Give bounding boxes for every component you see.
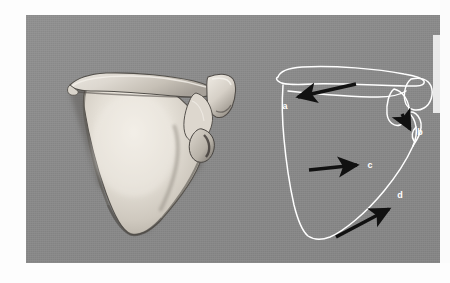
outline-spine-of-scapula [277, 66, 425, 86]
label-d: d [397, 190, 403, 200]
label-b: b [417, 127, 423, 137]
label-a: a [282, 101, 288, 111]
label-c: c [367, 160, 372, 170]
outline-scapula-body [282, 85, 416, 239]
page-bottom-margin [0, 263, 450, 283]
page-right-margin [440, 0, 450, 283]
arrow-c [309, 165, 357, 170]
line-drawing-diagram: a b c d [26, 15, 440, 263]
photo-plate: a b c d [26, 15, 440, 263]
figure-page: a b c d [0, 0, 450, 283]
